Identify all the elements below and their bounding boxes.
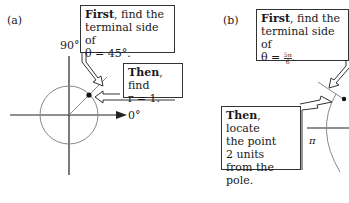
callout-text: , find the	[114, 8, 164, 21]
callout-text: r = 1.	[128, 92, 160, 105]
first-bold: First	[85, 8, 114, 21]
callout-text: 2 units	[226, 148, 264, 161]
panel-b-circle-arc	[326, 94, 340, 172]
fraction: 5π6	[284, 52, 292, 65]
frac-den: 6	[284, 59, 292, 65]
panel-b-pi-label: π	[309, 134, 316, 147]
callout-text: , find the	[290, 12, 340, 25]
panel-b-point	[342, 97, 346, 101]
then-bold: Then	[128, 66, 159, 79]
panel-b-graph	[300, 60, 349, 172]
then-bold: Then	[226, 109, 257, 122]
panel-a-90-label: 90°	[60, 39, 80, 52]
callout-text: terminal side of	[85, 21, 159, 47]
first-bold: First	[261, 12, 290, 25]
panel-b-then-arrow-icon	[300, 96, 332, 170]
panel-b-then-callout: Then, locate the point 2 units from the …	[221, 106, 301, 170]
callout-text: terminal side of	[261, 25, 335, 51]
panel-b-label: (b)	[223, 14, 239, 27]
panel-a-point	[86, 92, 91, 97]
panel-b-first-callout: First, find the terminal side of θ = 5π6…	[256, 9, 349, 61]
panel-a-first-callout: First, find the terminal side of θ = 45°…	[80, 5, 175, 53]
panel-a-0-label: 0°	[128, 109, 141, 122]
panel-a-label: (a)	[7, 14, 22, 27]
callout-text: θ =	[261, 51, 284, 64]
panel-a-x-arrow-icon	[116, 111, 127, 119]
panel-b-first-arrow-icon	[329, 60, 349, 88]
callout-text: .	[292, 51, 296, 64]
callout-text: the point	[226, 135, 276, 148]
panel-a-then-callout: Then, find r = 1.	[123, 63, 183, 98]
callout-text: θ = 45°.	[85, 47, 131, 60]
